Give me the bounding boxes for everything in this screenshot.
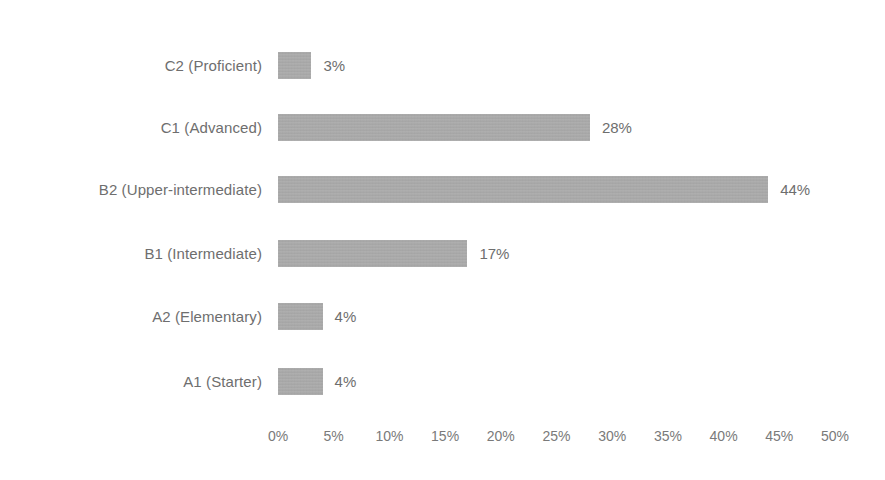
category-label: B1 (Intermediate)	[0, 245, 262, 262]
table-row: B1 (Intermediate) 17%	[0, 222, 885, 284]
bar-group: 4%	[278, 303, 356, 330]
bar-group: 3%	[278, 52, 345, 79]
bar-a1	[278, 368, 323, 395]
x-tick-label: 30%	[598, 428, 626, 444]
category-label: A2 (Elementary)	[0, 308, 262, 325]
table-row: B2 (Upper-intermediate) 44%	[0, 158, 885, 220]
x-tick-label: 50%	[821, 428, 849, 444]
x-tick-label: 0%	[268, 428, 288, 444]
table-row: A1 (Starter) 4%	[0, 350, 885, 412]
bar-value-label: 4%	[335, 373, 357, 390]
x-tick-label: 15%	[431, 428, 459, 444]
bar-value-label: 44%	[780, 181, 810, 198]
bar-group: 44%	[278, 176, 810, 203]
bar-group: 4%	[278, 368, 356, 395]
bar-chart: C2 (Proficient) 3% C1 (Advanced) 28% B2 …	[0, 0, 885, 480]
x-tick-label: 20%	[487, 428, 515, 444]
x-tick-label: 5%	[324, 428, 344, 444]
bar-a2	[278, 303, 323, 330]
category-label: C1 (Advanced)	[0, 119, 262, 136]
x-tick-label: 10%	[375, 428, 403, 444]
x-tick-label: 40%	[710, 428, 738, 444]
bar-value-label: 4%	[335, 308, 357, 325]
bar-c2	[278, 52, 311, 79]
bar-b1	[278, 240, 467, 267]
bar-b2	[278, 176, 768, 203]
table-row: A2 (Elementary) 4%	[0, 285, 885, 347]
bar-value-label: 28%	[602, 119, 632, 136]
bar-group: 17%	[278, 240, 509, 267]
bar-value-label: 17%	[479, 245, 509, 262]
bar-group: 28%	[278, 114, 632, 141]
bar-c1	[278, 114, 590, 141]
table-row: C1 (Advanced) 28%	[0, 96, 885, 158]
x-tick-label: 25%	[542, 428, 570, 444]
table-row: C2 (Proficient) 3%	[0, 34, 885, 96]
category-label: C2 (Proficient)	[0, 57, 262, 74]
x-tick-label: 45%	[765, 428, 793, 444]
x-tick-label: 35%	[654, 428, 682, 444]
category-label: A1 (Starter)	[0, 373, 262, 390]
x-axis: 0% 5% 10% 15% 20% 25% 30% 35% 40% 45% 50…	[278, 428, 835, 450]
plot-area: C2 (Proficient) 3% C1 (Advanced) 28% B2 …	[0, 0, 885, 480]
bar-value-label: 3%	[323, 57, 345, 74]
category-label: B2 (Upper-intermediate)	[0, 181, 262, 198]
